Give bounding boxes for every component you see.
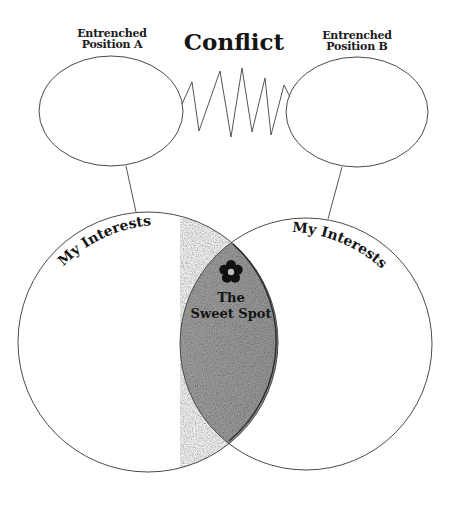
sweet-spot-region [180,218,432,470]
position-a-ellipse [39,56,183,166]
position-a-label: Entrenched Position A [77,27,147,51]
sweet-spot-fill [180,218,432,470]
my-interests-label-right: My Interests [292,219,391,272]
position-b-label: Entrenched Position B [322,29,392,53]
my-interests-label-left: My Interests [54,212,151,268]
position-b-label-line2: Position B [326,40,387,53]
connector-line-b [328,167,342,219]
sweet-spot-label-line1: The [217,290,244,305]
position-b-ellipse [286,57,428,167]
sweet-spot-label-line2: Sweet Spot [191,306,272,321]
conflict-zigzag [182,68,290,137]
position-a-label-line2: Position A [82,38,143,51]
diagram-title: Conflict [184,28,285,55]
connector-line-a [126,166,136,212]
conflict-diagram: Entrenched Position A Conflict Entrenche… [0,0,454,508]
